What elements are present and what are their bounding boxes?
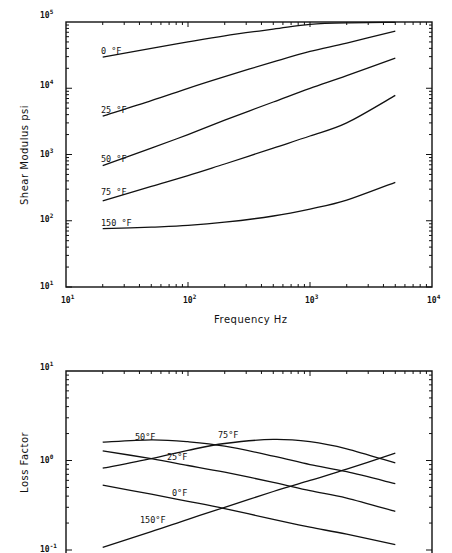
curve-label-150F: 150 °F xyxy=(101,218,132,228)
curve-label-150F-loss: 150°F xyxy=(140,515,166,525)
bottom-y-tick-1e1: 101 xyxy=(40,360,54,372)
bottom-y-axis-title: Loss Factor xyxy=(19,431,30,493)
curve-label-50F-loss: 50°F xyxy=(135,432,155,442)
top-x-tick-1e4: 104 xyxy=(427,293,441,305)
top-y-tick-1e1: 101 xyxy=(40,279,54,291)
bottom-y-tick-1e0: 100 xyxy=(40,453,54,465)
curve-75F xyxy=(103,439,396,468)
curve-0F xyxy=(103,22,396,57)
curve-150F xyxy=(103,453,396,547)
bottom-y-tick-1e-1: 10-1 xyxy=(40,542,57,553)
top-curves xyxy=(103,22,396,228)
top-y-tick-1e2: 102 xyxy=(40,212,54,224)
curve-label-0F: 0 °F xyxy=(101,46,121,56)
curve-label-75F-loss: 75°F xyxy=(218,430,238,440)
top-y-tick-1e5: 105 xyxy=(40,8,54,20)
curve-label-25F: 25 °F xyxy=(101,105,127,115)
bottom-axis-ticks xyxy=(66,371,432,550)
curve-label-50F: 50 °F xyxy=(101,154,127,164)
curve-150F xyxy=(103,182,396,228)
top-y-tick-1e4: 104 xyxy=(40,78,54,90)
curve-label-25F-loss: 25°F xyxy=(167,452,187,462)
top-x-tick-1e2: 102 xyxy=(183,293,197,305)
top-x-axis-title: Frequency Hz xyxy=(214,314,288,325)
curve-label-0F-loss: 0°F xyxy=(172,488,187,498)
bottom-curves xyxy=(103,439,396,547)
top-y-axis-title: Shear Modulus psi xyxy=(19,105,30,205)
shear-modulus-chart: 105 104 103 102 101 101 102 103 104 Freq… xyxy=(19,8,441,325)
top-x-tick-1e3: 103 xyxy=(305,293,319,305)
curve-label-75F: 75 °F xyxy=(101,187,127,197)
curve-50F xyxy=(103,58,396,166)
figure: 105 104 103 102 101 101 102 103 104 Freq… xyxy=(0,0,452,553)
bottom-plot-frame xyxy=(66,371,432,553)
top-y-tick-1e3: 103 xyxy=(40,147,54,159)
top-x-tick-1e1: 101 xyxy=(61,293,75,305)
loss-factor-chart: 101 100 10-1 Loss Factor 50°F 75°F 25°F … xyxy=(19,360,432,553)
